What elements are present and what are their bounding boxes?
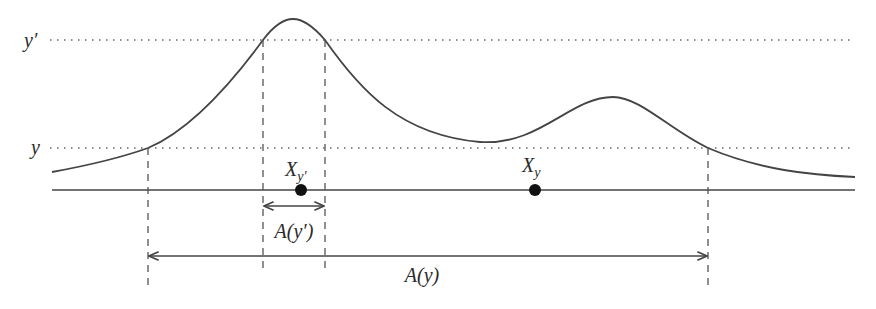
label-x-y: Xy [521,154,541,180]
label-y-prime: y′ [22,29,38,52]
label-y: y [29,136,40,159]
label-a-y: A(y) [403,264,440,287]
label-a-y-prime: A(y′) [273,220,314,243]
density-curve [52,19,855,177]
label-x-y-prime: Xy′ [284,158,307,184]
point-x-y [529,184,541,196]
point-x-y-prime [295,184,307,196]
level-set-diagram: y′ y Xy′ Xy A(y′) A(y) [0,0,876,309]
